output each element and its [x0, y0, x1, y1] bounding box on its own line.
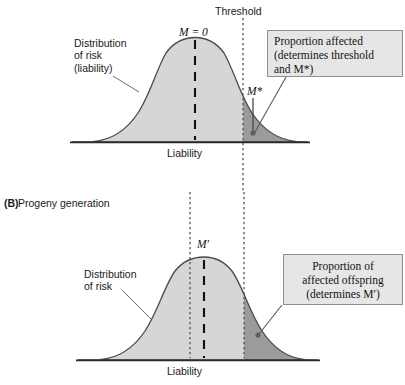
dist-top-line2: of risk — [74, 49, 102, 61]
panel-title-progeny-generation: Progeny generation — [18, 197, 110, 209]
dist-bot-line2: of risk — [84, 280, 112, 292]
callout-proportion-affected: Proportion affected(determines threshold… — [267, 30, 403, 77]
distribution-of-risk-label-parental: Distributionof risk(liability) — [74, 37, 127, 74]
mstar-label: M* — [247, 85, 262, 99]
callout-bot-line1: Proportion of — [312, 260, 374, 272]
callout-bot-line3: (determines M′) — [306, 288, 380, 300]
callout-proportion-affected-offspring: Proportion ofaffected offspring(determin… — [283, 254, 403, 305]
dist-top-line1: Distribution — [74, 37, 127, 49]
figure-root: Threshold M = 0 M* Distributionof risk(l… — [0, 0, 405, 385]
dist-top-line3: (liability) — [74, 62, 113, 74]
top-mstar-marker-dot — [250, 130, 255, 135]
bottom-distribution-leader-line — [122, 290, 152, 320]
mean-label-parental: M = 0 — [179, 26, 208, 40]
dist-bot-line1: Distribution — [84, 268, 137, 280]
top-distribution-leader-line — [113, 76, 139, 92]
mean-label-progeny: M′ — [197, 238, 209, 252]
axis-label-liability-parental: Liability — [167, 147, 202, 159]
callout-top-line1: Proportion affected — [274, 35, 363, 47]
threshold-label: Threshold — [215, 5, 262, 17]
bottom-callout-leader-line — [259, 305, 282, 334]
axis-label-liability-progeny: Liability — [167, 365, 202, 377]
distribution-of-risk-label-progeny: Distributionof risk — [84, 268, 137, 293]
bottom-affected-marker-dot — [255, 332, 260, 337]
callout-top-line2: (determines threshold — [274, 49, 374, 61]
callout-top-line3: and M*) — [274, 63, 313, 75]
callout-bot-line2: affected offspring — [302, 274, 384, 286]
panel-tag-b: (B) — [4, 197, 19, 209]
